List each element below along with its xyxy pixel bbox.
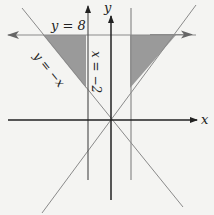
label-y-equals-8: y = 8 xyxy=(50,18,86,33)
y-axis-label: y xyxy=(103,0,112,15)
label-x-equals-neg-2: x = −2 xyxy=(89,51,103,93)
inequality-graph: x y y = 8 x = −2 y = −x xyxy=(0,0,214,215)
x-axis-label: x xyxy=(201,112,209,127)
shaded-region-right xyxy=(130,35,176,88)
